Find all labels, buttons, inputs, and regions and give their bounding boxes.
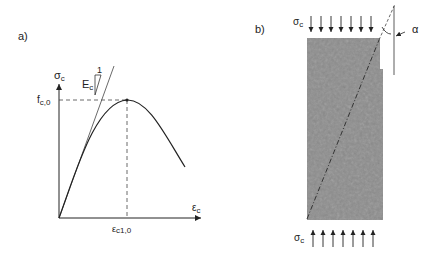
concrete-specimen (307, 38, 383, 220)
panel-a-label: a) (18, 30, 28, 42)
slope-label: 1 (97, 65, 102, 75)
x-axis-label: εc (192, 202, 200, 215)
peak-point (125, 98, 128, 101)
stress-strain-curve (59, 100, 185, 218)
angle-arc-right (396, 32, 405, 36)
bottom-load-arrows (313, 230, 373, 247)
modulus-label: Ec (82, 78, 93, 92)
panel-b-label: b) (255, 23, 265, 35)
slope-triangle (95, 75, 101, 95)
crack-extension-line (379, 4, 395, 40)
peak-strain-label: εc1,0 (112, 224, 132, 235)
angle-label: α (412, 23, 419, 35)
peak-stress-label: fc,0 (37, 94, 51, 107)
top-load-label: σc (293, 16, 303, 29)
top-load-arrows (311, 16, 371, 32)
panel-a: a) σc εc fc,0 εc1,0 1 Ec (18, 30, 201, 235)
figure-canvas: a) σc εc fc,0 εc1,0 1 Ec b) σc (0, 0, 433, 257)
panel-b: b) σc α σc (255, 4, 419, 247)
y-axis-label: σc (54, 69, 65, 83)
bottom-load-label: σc (294, 232, 304, 245)
